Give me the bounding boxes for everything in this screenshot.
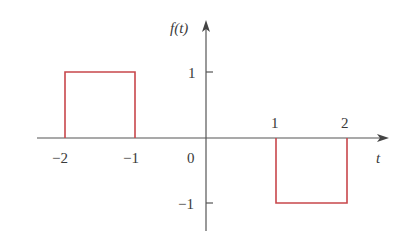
y-tick-label-1: 1 (188, 65, 196, 81)
signal-plot: f(t) t −2 −1 0 1 2 1 −1 (0, 0, 415, 236)
x-tick-label-neg1: −1 (123, 150, 139, 166)
pulse-negative (276, 138, 347, 203)
x-axis-label: t (376, 150, 381, 166)
y-tick-label-neg1: −1 (178, 196, 194, 212)
x-tick-label-neg2: −2 (52, 150, 68, 166)
x-tick-label-1: 1 (271, 115, 279, 131)
y-axis-label: f(t) (170, 20, 188, 37)
pulse-positive (65, 72, 135, 138)
x-tick-label-0: 0 (187, 150, 195, 166)
x-tick-label-2: 2 (341, 115, 349, 131)
